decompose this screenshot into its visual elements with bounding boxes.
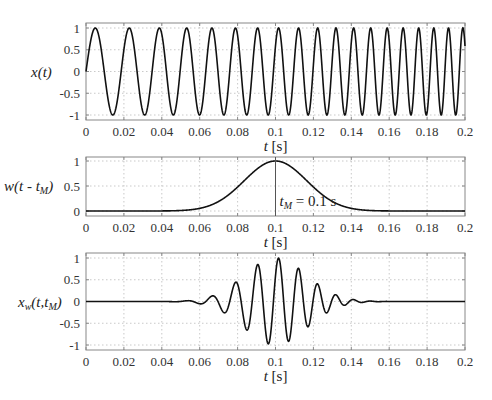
x-tick-label: 0.12 <box>302 220 325 235</box>
y-tick-label: 0.5 <box>64 42 80 57</box>
x-tick-label: 0.2 <box>457 124 473 139</box>
y-axis-label-middle: w(t - tM) <box>4 178 53 196</box>
x-tick-label: 0.18 <box>416 354 439 369</box>
y-tick-label: -1 <box>69 338 80 353</box>
x-tick-label: 0.16 <box>378 124 401 139</box>
y-tick-label: 0 <box>74 204 81 219</box>
subplot-2: 00.020.040.060.080.10.120.140.160.180.21… <box>64 154 473 251</box>
y-tick-label: -0.5 <box>59 316 80 331</box>
figure: 00.020.040.060.080.10.120.140.160.180.21… <box>0 0 492 400</box>
y-tick-label: 1 <box>74 154 81 169</box>
x-tick-label: 0.04 <box>150 124 173 139</box>
tm-annotation: tM = 0.1 s <box>280 193 337 211</box>
x-tick-label: 0.04 <box>150 354 173 369</box>
y-tick-label: -1 <box>69 108 80 123</box>
x-axis-label: t [s] <box>264 234 288 250</box>
x-tick-label: 0.14 <box>340 354 363 369</box>
x-tick-label: 0.02 <box>113 124 136 139</box>
x-tick-label: 0.16 <box>378 220 401 235</box>
x-tick-label: 0.08 <box>226 220 249 235</box>
y-tick-label: 0.5 <box>64 272 80 287</box>
x-axis-label: t [s] <box>264 138 288 154</box>
y-tick-label: 1 <box>74 251 81 266</box>
x-tick-label: 0.18 <box>416 220 439 235</box>
y-tick-label: 0 <box>74 64 81 79</box>
x-tick-label: 0.08 <box>226 354 249 369</box>
y-axis-label-top: x(t) <box>30 64 52 81</box>
x-tick-label: 0.14 <box>340 124 363 139</box>
x-tick-label: 0.2 <box>457 354 473 369</box>
x-tick-label: 0.1 <box>267 354 283 369</box>
x-tick-label: 0.06 <box>188 124 211 139</box>
x-tick-label: 0.2 <box>457 220 473 235</box>
y-tick-label: 0.5 <box>64 179 80 194</box>
x-tick-label: 0.1 <box>267 124 283 139</box>
x-tick-label: 0.02 <box>113 354 136 369</box>
subplot-1: 00.020.040.060.080.10.120.140.160.180.21… <box>59 21 473 155</box>
x-tick-label: 0.14 <box>340 220 363 235</box>
x-tick-label: 0.16 <box>378 354 401 369</box>
y-axis-label-bottom: xw(t,tM) <box>17 294 62 312</box>
x-tick-label: 0.06 <box>188 220 211 235</box>
x-tick-label: 0.02 <box>113 220 136 235</box>
x-tick-label: 0 <box>83 124 90 139</box>
x-tick-label: 0.04 <box>150 220 173 235</box>
x-tick-label: 0.1 <box>267 220 283 235</box>
y-tick-label: 1 <box>74 21 81 36</box>
x-tick-label: 0.12 <box>302 354 325 369</box>
x-tick-label: 0 <box>83 220 90 235</box>
x-tick-label: 0.06 <box>188 354 211 369</box>
x-tick-label: 0.18 <box>416 124 439 139</box>
x-tick-label: 0 <box>83 354 90 369</box>
y-tick-label: 0 <box>74 294 81 309</box>
x-axis-label: t [s] <box>264 368 288 384</box>
x-tick-label: 0.12 <box>302 124 325 139</box>
y-tick-label: -0.5 <box>59 86 80 101</box>
x-tick-label: 0.08 <box>226 124 249 139</box>
subplot-3: 00.020.040.060.080.10.120.140.160.180.21… <box>59 251 473 385</box>
